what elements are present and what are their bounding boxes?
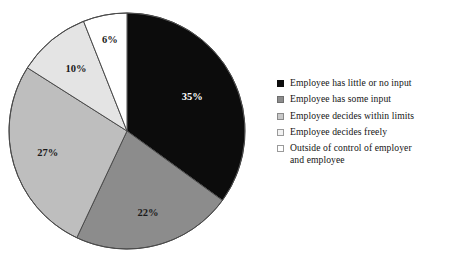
legend-label-4: Outside of control of employer and emplo… <box>290 142 412 165</box>
legend-item-3[interactable]: Employee decides freely <box>277 126 452 137</box>
pie-slice-label-2: 27% <box>37 147 58 158</box>
legend-label-1: Employee has some input <box>290 93 391 104</box>
legend-swatch-icon-0 <box>277 80 284 87</box>
legend-swatch-icon-1 <box>277 96 284 103</box>
legend-item-4[interactable]: Outside of control of employer and emplo… <box>277 142 452 165</box>
legend-swatch-icon-3 <box>277 129 284 136</box>
legend-item-1[interactable]: Employee has some input <box>277 93 452 104</box>
pie-chart-figure: 35%22%27%10%6% Employee has little or no… <box>0 0 452 262</box>
legend-label-3: Employee decides freely <box>290 126 387 137</box>
pie-slice-label-1: 22% <box>138 207 159 218</box>
legend-swatch-icon-2 <box>277 113 284 120</box>
legend-item-2[interactable]: Employee decides within limits <box>277 110 452 121</box>
legend-label-2: Employee decides within limits <box>290 110 414 121</box>
pie-plot-area: 35%22%27%10%6% <box>0 0 262 262</box>
legend-swatch-icon-4 <box>277 145 284 152</box>
pie-slice-label-4: 6% <box>102 34 118 45</box>
pie-slice-label-3: 10% <box>65 63 86 74</box>
pie-slice-label-0: 35% <box>182 91 203 102</box>
legend-item-0[interactable]: Employee has little or no input <box>277 77 452 88</box>
legend-label-0: Employee has little or no input <box>290 77 412 88</box>
chart-legend: Employee has little or no input Employee… <box>277 77 452 170</box>
pie-svg: 35%22%27%10%6% <box>0 0 262 262</box>
